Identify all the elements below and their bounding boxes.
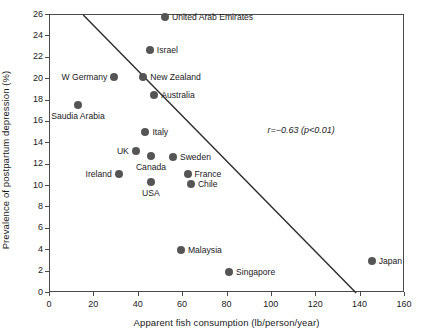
y-tick-label: 0 xyxy=(38,288,43,297)
y-tick-mark xyxy=(45,14,49,15)
y-axis-title: Prevalence of postpartum depression (%) xyxy=(0,21,14,299)
y-tick-mark xyxy=(45,228,49,229)
y-tick-label: 10 xyxy=(33,181,43,190)
x-tick-label: 140 xyxy=(352,300,367,309)
x-tick-mark xyxy=(360,292,361,296)
y-tick-label: 24 xyxy=(33,31,43,40)
x-tick-mark xyxy=(138,292,139,296)
correlation-annotation: r=−0.63 (p<0.01) xyxy=(267,125,334,135)
x-tick-mark xyxy=(182,292,183,296)
data-point-label: New Zealand xyxy=(150,73,201,82)
data-point-label: Italy xyxy=(152,127,168,136)
x-tick-label: 60 xyxy=(177,300,187,309)
y-tick-label: 22 xyxy=(33,52,43,61)
data-point-label: Chile xyxy=(198,179,218,188)
data-point-label: Singapore xyxy=(236,267,275,276)
y-tick-mark xyxy=(45,271,49,272)
data-point-label: Japan xyxy=(379,256,402,265)
y-tick-label: 12 xyxy=(33,159,43,168)
data-point xyxy=(184,170,192,178)
x-tick-mark xyxy=(227,292,228,296)
y-tick-label: 8 xyxy=(38,202,43,211)
data-point xyxy=(225,268,233,276)
data-point-label: Israel xyxy=(157,46,178,55)
y-tick-label: 4 xyxy=(38,245,43,254)
x-tick-label: 120 xyxy=(308,300,323,309)
y-tick-mark xyxy=(45,206,49,207)
y-tick-mark xyxy=(45,142,49,143)
plot-area: United Arab EmiratesIsraelW GermanyNew Z… xyxy=(49,14,404,292)
x-tick-mark xyxy=(404,292,405,296)
y-tick-label: 18 xyxy=(33,95,43,104)
y-tick-label: 6 xyxy=(38,223,43,232)
y-tick-label: 14 xyxy=(33,138,43,147)
x-tick-label: 100 xyxy=(263,300,278,309)
trendline xyxy=(50,15,405,293)
data-point-label: Sweden xyxy=(180,153,211,162)
scatter-chart-figure: Prevalence of postpartum depression (%) … xyxy=(0,0,428,335)
y-tick-mark xyxy=(45,164,49,165)
y-tick-label: 16 xyxy=(33,116,43,125)
data-point-label: Canada xyxy=(136,163,166,172)
x-tick-label: 20 xyxy=(88,300,98,309)
x-tick-mark xyxy=(93,292,94,296)
x-tick-label: 40 xyxy=(133,300,143,309)
data-point xyxy=(368,257,376,265)
x-tick-mark xyxy=(315,292,316,296)
y-tick-label: 2 xyxy=(38,266,43,275)
x-tick-mark xyxy=(271,292,272,296)
data-point-label: Saudia Arabia xyxy=(51,112,105,121)
x-tick-label: 80 xyxy=(221,300,231,309)
data-point xyxy=(141,128,149,136)
data-point xyxy=(74,101,82,109)
y-tick-mark xyxy=(45,249,49,250)
data-point-label: UK xyxy=(117,146,129,155)
data-point-label: Ireland xyxy=(86,170,112,179)
data-point-label: United Arab Emirates xyxy=(172,13,253,22)
x-axis-title: Apparent fish consumption (lb/person/yea… xyxy=(49,317,404,328)
y-tick-label: 26 xyxy=(33,10,43,19)
data-point-label: W Germany xyxy=(62,73,108,82)
y-tick-mark xyxy=(45,100,49,101)
y-tick-label: 20 xyxy=(33,74,43,83)
data-point xyxy=(187,180,195,188)
y-tick-mark xyxy=(45,35,49,36)
y-tick-mark xyxy=(45,78,49,79)
y-tick-mark xyxy=(45,57,49,58)
data-point-label: USA xyxy=(142,189,160,198)
data-point xyxy=(147,178,155,186)
x-tick-label: 160 xyxy=(396,300,411,309)
x-tick-label: 0 xyxy=(46,300,51,309)
y-tick-mark xyxy=(45,121,49,122)
x-tick-mark xyxy=(49,292,50,296)
data-point xyxy=(161,13,169,21)
y-tick-mark xyxy=(45,185,49,186)
data-point-label: Australia xyxy=(161,91,194,100)
data-point xyxy=(132,147,140,155)
data-point-label: Malaysia xyxy=(188,246,222,255)
